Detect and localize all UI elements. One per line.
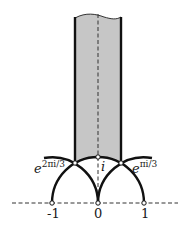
tick-label-1: 1 [141, 207, 149, 220]
point-1 [142, 201, 146, 205]
point-minus1 [50, 201, 54, 205]
circle-centered-minus1 [62, 174, 98, 203]
label-base: e [132, 161, 140, 176]
label-i: i [101, 160, 105, 173]
tick-label-0: 0 [94, 207, 102, 220]
tick-label-minus1: -1 [47, 207, 60, 220]
label-base: e [34, 161, 42, 176]
label-exponent: πi/3 [140, 159, 158, 169]
diagram-svg [0, 0, 186, 228]
point-e-pi-i-3 [119, 161, 123, 165]
label-exponent: 2πi/3 [42, 159, 65, 169]
modular-domain-diagram: e2πi/3 eπi/3 i -1 0 1 [0, 0, 186, 228]
point-0 [96, 201, 100, 205]
label-e-2pi-i-3: e2πi/3 [34, 162, 65, 175]
point-e-2pi-i-3 [73, 161, 77, 165]
point-i [96, 155, 100, 159]
label-e-pi-i-3: eπi/3 [132, 162, 157, 175]
